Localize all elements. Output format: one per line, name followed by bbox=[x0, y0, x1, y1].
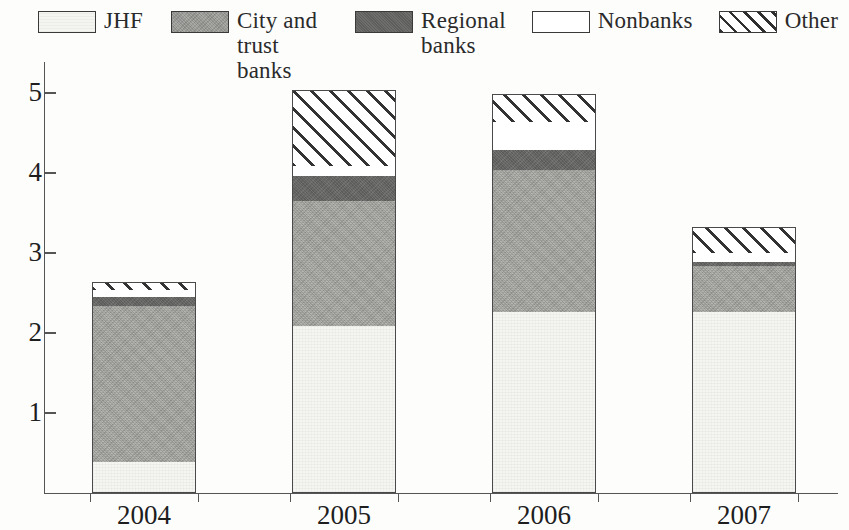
bar-segment-nonbanks bbox=[292, 166, 396, 176]
x-tick-label-2005: 2005 bbox=[284, 500, 404, 530]
bar-segment-city bbox=[92, 306, 196, 462]
bar-segment-nonbanks bbox=[92, 290, 196, 297]
bar-segment-nonbanks bbox=[692, 253, 796, 263]
bar-segment-city bbox=[492, 170, 596, 312]
y-axis-line bbox=[44, 62, 45, 494]
y-tick-label-4: 4 bbox=[2, 159, 42, 186]
y-tick-mark-1 bbox=[44, 412, 56, 413]
chart-figure: JHF City and trust banks Regional banks … bbox=[0, 0, 849, 530]
bar-2007 bbox=[692, 227, 796, 493]
bar-2004 bbox=[92, 282, 196, 493]
bar-segment-jhf bbox=[492, 312, 596, 493]
bar-segment-city bbox=[692, 266, 796, 312]
y-tick-label-3: 3 bbox=[2, 239, 42, 266]
x-tick-label-2004: 2004 bbox=[84, 500, 204, 530]
bar-segment-jhf bbox=[692, 312, 796, 493]
bar-2005 bbox=[292, 90, 396, 493]
x-tick-label-2006: 2006 bbox=[484, 500, 604, 530]
x-tick-label-2007: 2007 bbox=[684, 500, 804, 530]
bar-segment-regional bbox=[92, 297, 196, 306]
y-tick-label-5: 5 bbox=[2, 79, 42, 106]
bar-segment-city bbox=[292, 201, 396, 327]
y-tick-label-2: 2 bbox=[2, 319, 42, 346]
bar-segment-jhf bbox=[292, 326, 396, 493]
y-tick-label-1: 1 bbox=[2, 399, 42, 426]
y-tick-mark-2 bbox=[44, 332, 56, 333]
plot-area: 1 2 3 4 5 2004 2005 2006 2007 bbox=[0, 0, 849, 530]
y-tick-mark-4 bbox=[44, 172, 56, 173]
y-tick-mark-3 bbox=[44, 252, 56, 253]
y-tick-mark-5 bbox=[44, 92, 56, 93]
bar-segment-regional bbox=[492, 150, 596, 170]
bar-segment-other bbox=[92, 282, 196, 290]
bar-segment-nonbanks bbox=[492, 122, 596, 150]
bar-segment-other bbox=[292, 90, 396, 166]
bar-2006 bbox=[492, 94, 596, 493]
bar-segment-regional bbox=[292, 176, 396, 201]
bar-segment-other bbox=[692, 227, 796, 253]
bar-segment-other bbox=[492, 94, 596, 122]
bar-segment-jhf bbox=[92, 462, 196, 493]
